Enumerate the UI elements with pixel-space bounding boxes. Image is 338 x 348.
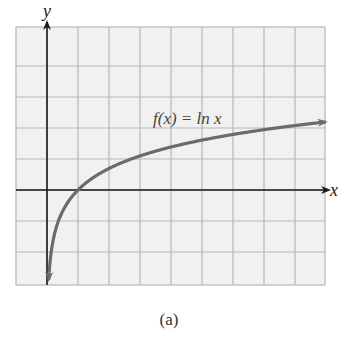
- ln-chart: y x f(x) = ln x: [0, 0, 338, 348]
- function-label: f(x) = ln x: [153, 109, 222, 128]
- figure-caption: (a): [0, 310, 338, 330]
- y-axis-label: y: [41, 1, 51, 21]
- x-axis-label: x: [329, 180, 338, 200]
